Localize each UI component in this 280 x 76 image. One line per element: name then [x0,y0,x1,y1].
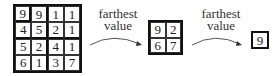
grid-cell: 7 [64,55,80,71]
grid-cell: 5 [31,22,47,38]
grid-cell: 7 [166,38,182,54]
grid-cell: 1 [31,55,47,71]
grid-cell: 5 [15,39,31,55]
step1-label-line2: value [92,20,144,32]
step2-label: farthest value [195,8,247,32]
input-grid-4x4: 9 9 1 1 4 5 2 1 5 2 4 1 6 1 3 7 [13,4,82,73]
grid-cell: 3 [48,55,64,71]
grid-cell: 1 [48,6,64,22]
pooled-grid-1x1: 9 [251,31,269,49]
grid-cell: 4 [15,22,31,38]
grid-cell: 4 [48,39,64,55]
pooled-grid-2x2: 9 2 6 7 [148,20,183,55]
grid-cell: 2 [166,22,182,38]
grid-cell: 2 [31,39,47,55]
step1-label: farthest value [92,8,144,32]
grid-cell: 6 [150,38,166,54]
grid-cell: 2 [48,22,64,38]
grid-cell: 9 [253,33,267,47]
step2-label-line2: value [195,20,247,32]
grid-cell: 1 [64,39,80,55]
grid-cell: 1 [64,6,80,22]
curved-arrow-icon [190,34,248,50]
grid-cell: 1 [64,22,80,38]
curved-arrow-icon [88,34,148,50]
grid-cell: 9 [15,6,31,22]
grid-cell: 6 [15,55,31,71]
grid-cell: 9 [31,6,47,22]
grid-cell: 9 [150,22,166,38]
